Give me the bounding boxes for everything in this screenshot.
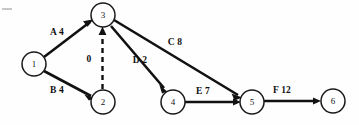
edge-dummy-group: 0 [87, 27, 107, 90]
node-2[interactable]: 2 [91, 90, 115, 114]
node-2-label: 2 [101, 97, 106, 107]
edge-dummy-arrowhead [99, 27, 107, 36]
node-5-label: 5 [250, 97, 255, 107]
node-6-label: 6 [331, 96, 336, 106]
network-diagram-canvas: A 4 B 4 0 C 8 D 2 E [0, 0, 359, 125]
edge-b-group: B 4 [44, 71, 95, 101]
edge-a-label: A 4 [50, 27, 64, 37]
edge-a-group: A 4 [44, 19, 94, 57]
node-1-label: 1 [32, 59, 37, 69]
edge-e-label: E 7 [196, 86, 210, 96]
node-4-label: 4 [171, 97, 176, 107]
edge-dummy-label: 0 [87, 54, 92, 64]
edge-f-label: F 12 [273, 85, 291, 95]
edge-c-label: C 8 [168, 37, 183, 47]
edge-d-label: D 2 [133, 55, 148, 65]
node-3[interactable]: 3 [91, 3, 115, 27]
node-3-label: 3 [101, 10, 106, 20]
edge-b-label: B 4 [50, 85, 64, 95]
edge-f-arrowhead [313, 97, 321, 104]
edge-f-group: F 12 [264, 85, 321, 105]
node-1[interactable]: 1 [22, 52, 46, 76]
node-6[interactable]: 6 [321, 89, 345, 113]
network-diagram-svg: A 4 B 4 0 C 8 D 2 E [0, 0, 359, 125]
node-4[interactable]: 4 [161, 90, 185, 114]
node-5[interactable]: 5 [240, 90, 264, 114]
